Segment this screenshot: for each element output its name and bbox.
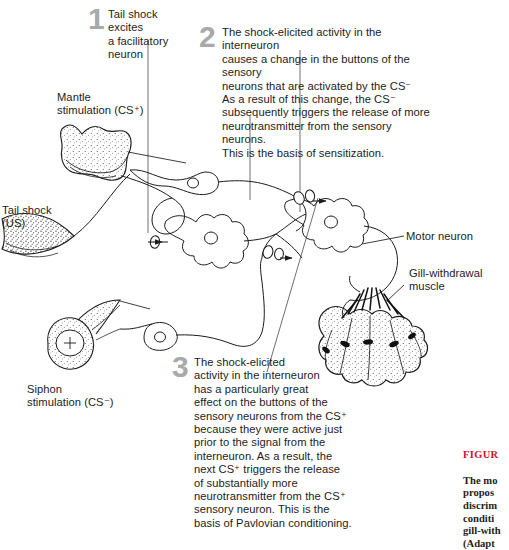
cs-plus-sensory-neuron <box>122 176 185 234</box>
label-siphon-stimulation: Siphon stimulation (CS⁻) <box>27 383 147 409</box>
annotation-step-1: 1 Tail shock excites a facilitatory neur… <box>88 8 193 62</box>
step-1-text: Tail shock excites a facilitatory neuron <box>108 8 193 62</box>
interneuron <box>262 214 306 258</box>
siphon-sensory-neuron <box>120 258 264 350</box>
step-2-number: 2 <box>199 22 216 52</box>
siphon-organ <box>48 300 120 369</box>
synaptic-buttons-top <box>292 189 316 206</box>
figure-number: FIGUR <box>463 449 509 462</box>
step-3-number: 3 <box>172 352 189 382</box>
figure-caption-body: The mo propos discrim conditi gill-with … <box>463 475 501 549</box>
sensory-neuron-mid <box>155 215 276 268</box>
mantle-organ <box>60 125 131 180</box>
label-motor-neuron: Motor neuron <box>406 230 506 243</box>
facilitatory-neuron <box>74 170 306 236</box>
annotation-step-2: 2 The shock-elicited activity in the int… <box>199 26 434 160</box>
motor-neuron-soma <box>285 199 398 318</box>
label-mantle-stimulation: Mantle stimulation (CS⁺) <box>57 91 177 117</box>
label-gill-withdrawal-muscle: Gill-withdrawal muscle <box>409 267 504 293</box>
synaptic-buttons-lower <box>262 245 284 261</box>
label-tail-shock: Tail shock (US) <box>2 204 92 230</box>
step-1-number: 1 <box>88 4 105 34</box>
figure-caption: FIGUR The mo propos discrim conditi gill… <box>463 436 509 550</box>
annotation-step-3: 3 The shock-elicited activity in the int… <box>172 356 352 530</box>
step-2-text: The shock-elicited activity in the inter… <box>222 26 434 160</box>
synaptic-button-left <box>150 235 161 249</box>
step-3-text: The shock-elicited activity in the inter… <box>194 356 352 530</box>
